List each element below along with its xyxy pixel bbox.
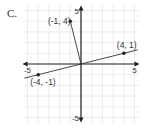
y-axis-arrow-down [79,118,84,123]
points: (-1, 4)(4, 1)(-4, -1) [30,16,137,87]
coordinate-plane: C. (-1, 4)(4, 1)(-4, -1) -5 5 5 -5 [0,0,158,131]
point-label: (-4, -1) [30,77,56,87]
data-point [122,52,126,56]
point-label: (-1, 4) [48,16,71,26]
y-axis-arrow-up [79,6,84,11]
x-tick-label-min: -5 [24,66,32,75]
x-tick-label-max: 5 [132,66,137,75]
y-tick-label-min: -5 [72,114,80,123]
problem-label: C. [7,7,17,19]
y-tick-label-max: 5 [75,7,80,16]
point-label: (4, 1) [117,40,137,50]
